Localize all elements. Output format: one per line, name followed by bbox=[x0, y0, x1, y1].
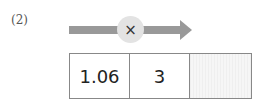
calculation-table: 1.06 3 bbox=[69, 53, 252, 99]
input-cell-1: 1.06 bbox=[70, 54, 130, 98]
multiply-icon: × bbox=[117, 16, 144, 43]
problem-number: (2) bbox=[11, 13, 28, 27]
right-arrow-icon bbox=[180, 20, 192, 40]
answer-cell[interactable] bbox=[190, 54, 251, 98]
input-cell-2: 3 bbox=[130, 54, 190, 98]
